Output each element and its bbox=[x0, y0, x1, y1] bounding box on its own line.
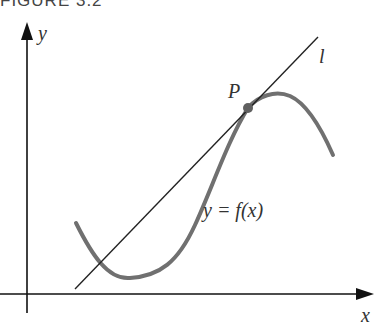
curve-label: y = f(x) bbox=[201, 199, 263, 222]
curve-f bbox=[76, 94, 333, 278]
tangent-diagram: y x P l y = f(x) bbox=[0, 0, 377, 333]
y-axis-label: y bbox=[36, 22, 47, 45]
point-p bbox=[243, 103, 253, 113]
point-p-label: P bbox=[227, 80, 240, 102]
y-axis bbox=[21, 22, 33, 313]
x-axis-label: x bbox=[360, 304, 370, 326]
x-axis bbox=[0, 288, 374, 300]
line-l-label: l bbox=[319, 45, 325, 67]
tangent-line bbox=[75, 37, 318, 289]
y-axis-arrow-icon bbox=[21, 22, 33, 40]
x-axis-arrow-icon bbox=[356, 288, 374, 300]
